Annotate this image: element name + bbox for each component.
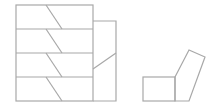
rotated-square — [175, 50, 205, 101]
small-figure — [143, 50, 205, 101]
stacked-rows-figure — [16, 5, 93, 101]
slant-divider — [46, 5, 62, 29]
small-square — [143, 77, 175, 101]
side-box-diagonal — [93, 53, 116, 69]
side-box-figure — [93, 21, 116, 101]
slant-divider — [46, 29, 62, 53]
slant-divider — [46, 77, 62, 101]
geometric-diagram — [0, 0, 215, 109]
slant-divider — [46, 53, 62, 77]
